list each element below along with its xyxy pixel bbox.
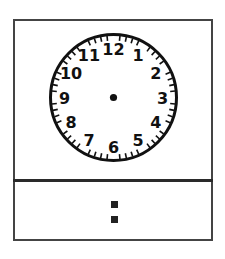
clock-center-dot <box>110 94 117 101</box>
minute-tick <box>53 109 58 110</box>
minute-tick <box>67 136 71 139</box>
hour-numeral-7: 7 <box>83 131 94 150</box>
minute-tick <box>88 150 90 155</box>
minute-tick <box>67 56 71 59</box>
minute-tick <box>94 39 96 44</box>
minute-tick <box>168 78 173 80</box>
minute-tick <box>152 140 155 144</box>
minute-tick <box>119 154 120 159</box>
minute-tick <box>55 115 60 117</box>
minute-tick <box>169 109 174 110</box>
hour-numeral-12: 12 <box>102 40 124 59</box>
hour-numeral-10: 10 <box>60 64 82 83</box>
colon-bottom-dot <box>111 216 118 223</box>
minute-tick <box>52 91 57 92</box>
minute-tick <box>72 51 75 55</box>
minute-tick <box>170 103 175 104</box>
colon-top-dot <box>111 201 118 208</box>
minute-tick <box>52 103 57 104</box>
minute-tick <box>55 78 60 80</box>
minute-tick <box>88 41 90 46</box>
hour-numeral-8: 8 <box>65 113 76 132</box>
hour-numeral-5: 5 <box>132 131 143 150</box>
minute-tick <box>137 150 139 155</box>
minute-tick <box>125 153 126 158</box>
minute-tick <box>94 152 96 157</box>
hour-numeral-6: 6 <box>108 138 119 157</box>
minute-tick <box>131 152 133 157</box>
minute-tick <box>147 47 150 51</box>
minute-tick <box>137 41 139 46</box>
hour-numeral-2: 2 <box>150 64 161 83</box>
minute-tick <box>166 72 171 74</box>
digital-time-answer-box[interactable] <box>15 182 211 239</box>
minute-tick <box>169 85 174 86</box>
hour-numeral-3: 3 <box>157 89 168 108</box>
minute-tick <box>152 51 155 55</box>
minute-tick <box>77 144 80 148</box>
hour-numeral-11: 11 <box>78 46 100 65</box>
minute-tick <box>53 85 58 86</box>
minute-tick <box>125 37 126 42</box>
minutes-blank[interactable] <box>131 200 171 222</box>
hour-numeral-4: 4 <box>150 113 161 132</box>
minute-tick <box>170 91 175 92</box>
minute-tick <box>156 56 160 59</box>
minute-tick <box>72 140 75 144</box>
minute-tick <box>166 121 171 123</box>
hour-numeral-1: 1 <box>132 46 143 65</box>
minute-tick <box>131 39 133 44</box>
hours-blank[interactable] <box>55 200 95 222</box>
minute-tick <box>101 153 102 158</box>
minute-tick <box>57 121 62 123</box>
minute-tick <box>168 115 173 117</box>
minute-tick <box>156 136 160 139</box>
minute-tick <box>147 144 150 148</box>
hour-numeral-9: 9 <box>59 89 70 108</box>
